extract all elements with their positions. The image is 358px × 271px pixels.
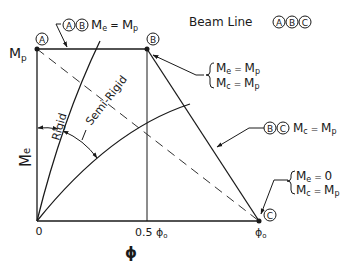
svg-text:C: C: [267, 211, 273, 221]
svg-text:Mc = Mp: Mc = Mp: [293, 121, 336, 136]
y-axis-label: Me: [17, 148, 35, 167]
point-b-dot: [145, 47, 150, 52]
point-c-dot: [257, 219, 262, 224]
svg-text:B: B: [150, 35, 156, 45]
semi-rigid-label: Semi-Rigid: [83, 73, 130, 128]
annotation-point-b: Me = Mp Mc = Mp: [153, 55, 260, 91]
point-c-label: C: [264, 209, 276, 221]
semi-rigid-label-leader: [82, 130, 86, 140]
semi-rigid-angle-arc: [63, 131, 97, 158]
beam-line-diagram: Rigid Semi-Rigid A B C Mp Me 0 0.5 ϕo ϕo…: [0, 0, 358, 271]
svg-text:B: B: [79, 21, 85, 31]
annotation-bc: B C Mc = Mp: [217, 121, 336, 147]
x-tick-half: 0.5 ϕo: [135, 226, 168, 240]
rigid-label: Rigid: [49, 112, 69, 142]
y-tick-mp: Mp: [9, 45, 27, 63]
annotation-point-c: Me = 0 Mc = Mp: [261, 169, 339, 214]
x-axis-label: ϕ: [125, 244, 137, 262]
annotation-ab: A B Me = Mp: [56, 17, 138, 47]
x-tick-full: ϕo: [255, 226, 267, 240]
svg-text:B: B: [289, 18, 295, 28]
svg-text:Me = 0: Me = 0: [296, 169, 332, 184]
svg-text:A: A: [66, 21, 73, 31]
svg-text:B: B: [267, 124, 273, 134]
point-a-dot: [35, 47, 40, 52]
svg-text:A: A: [276, 18, 283, 28]
svg-text:Me = Mp: Me = Mp: [91, 17, 138, 33]
legend-title: Beam Line A B C: [189, 15, 311, 29]
svg-text:Beam Line: Beam Line: [189, 15, 252, 29]
svg-text:Mc = Mp: Mc = Mp: [216, 76, 259, 91]
svg-text:Mc = Mp: Mc = Mp: [296, 183, 339, 198]
svg-text:C: C: [302, 18, 308, 28]
point-a-label: A: [36, 33, 48, 45]
rigid-curve: [37, 41, 100, 221]
x-tick-0: 0: [36, 225, 43, 238]
point-b-label: B: [147, 33, 159, 45]
svg-text:A: A: [39, 35, 46, 45]
svg-text:C: C: [280, 124, 286, 134]
svg-text:Me = Mp: Me = Mp: [216, 61, 260, 76]
